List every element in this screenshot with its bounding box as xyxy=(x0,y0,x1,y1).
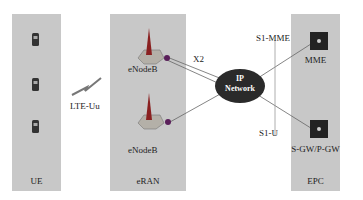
mme-server-icon xyxy=(310,32,328,50)
ip-network-label-2: Network xyxy=(222,84,258,93)
ue-phone-icons xyxy=(32,33,39,133)
enodeb-2-label: eNodeB xyxy=(128,145,158,155)
ip-network-label-1: IP xyxy=(230,74,250,83)
x2-label: X2 xyxy=(193,54,204,64)
eran-domain-label: eRAN xyxy=(110,176,186,186)
enodeb-1-icon xyxy=(138,28,170,64)
ue-domain-label: UE xyxy=(12,176,61,186)
wireless-link-icon xyxy=(72,78,101,95)
enodeb-1-label: eNodeB xyxy=(128,64,158,74)
gw-label: S-GW/P-GW xyxy=(291,144,340,154)
lte-uu-label: LTE-Uu xyxy=(70,101,100,111)
epc-domain-label: EPC xyxy=(291,176,340,186)
s1-u-label: S1-U xyxy=(259,128,278,138)
diagram-graphics xyxy=(0,0,363,200)
mme-label: MME xyxy=(291,55,340,65)
s1-mme-label: S1-MME xyxy=(256,33,290,43)
enodeb-2-icon xyxy=(138,93,171,129)
gw-server-icon xyxy=(310,120,328,138)
